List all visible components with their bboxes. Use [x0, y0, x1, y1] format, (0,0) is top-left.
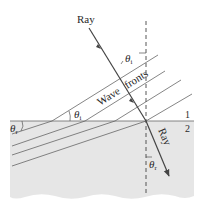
incident-ray-label: Ray	[77, 13, 95, 25]
theta-i-top-label: θi	[125, 52, 132, 66]
wavefronts-label: Wave fronts	[95, 67, 150, 108]
refraction-diagram: Ray θi Wave fronts θi θr 1 2 Ray θr	[0, 0, 206, 207]
wavefronts-medium-1	[52, 55, 192, 121]
theta-i-wavefront-label: θi	[74, 108, 81, 122]
medium-2-label: 2	[185, 123, 190, 134]
subscript-i: i	[130, 58, 132, 66]
medium-1-label: 1	[185, 109, 190, 120]
wave-word: Wave	[95, 84, 122, 107]
subscript-i: i	[79, 114, 81, 122]
theta-i-wavefront-arc	[69, 111, 70, 121]
